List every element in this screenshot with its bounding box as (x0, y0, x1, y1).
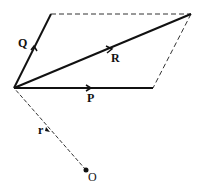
vector-q-line (14, 14, 51, 88)
diagram-canvas (0, 0, 199, 195)
dashed-right-side (153, 14, 191, 88)
label-r-resultant: R (111, 52, 120, 64)
position-vector-r-line (14, 88, 86, 170)
vector-diagram: Q R P r O (0, 0, 199, 195)
label-q: Q (18, 37, 27, 49)
label-p: P (87, 92, 94, 104)
label-r-position: r (38, 124, 43, 136)
vector-r-line (14, 14, 191, 88)
label-o: O (88, 171, 97, 183)
